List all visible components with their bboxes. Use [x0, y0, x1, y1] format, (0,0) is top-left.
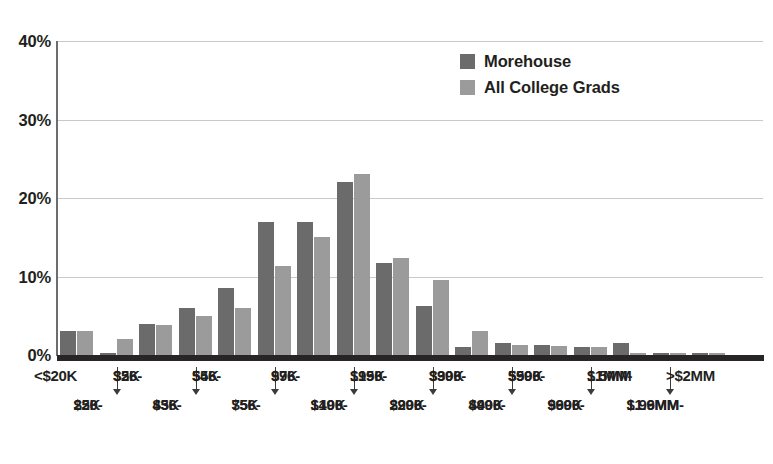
bar: [591, 347, 607, 355]
bar-chart: 0%10%20%30%40% Morehouse All College Gra…: [0, 0, 773, 464]
y-axis-tick-label: 10%: [0, 267, 51, 286]
legend-item-morehouse: Morehouse: [460, 50, 620, 72]
bar-group: [416, 41, 450, 355]
x-axis-tick-line: 499K: [469, 395, 504, 414]
chart-legend: Morehouse All College Grads: [460, 50, 620, 98]
bar: [376, 263, 392, 355]
bar: [139, 324, 155, 355]
x-axis-tick-line: 45K: [153, 395, 180, 414]
y-axis-line: [56, 41, 58, 356]
y-axis-tick-label: 30%: [0, 110, 51, 129]
bar-group: [376, 41, 410, 355]
x-axis-tick-line: 999K: [548, 395, 583, 414]
bar: [337, 182, 353, 355]
bar: [60, 331, 76, 355]
arrow-head: [350, 389, 358, 395]
legend-item-all-college-grads: All College Grads: [460, 76, 620, 98]
bar: [354, 174, 370, 355]
bar: [117, 339, 133, 355]
x-axis-tick-line: 599K: [508, 366, 543, 385]
bar-group: [337, 41, 371, 355]
legend-label: All College Grads: [484, 78, 620, 97]
bar: [433, 280, 449, 355]
x-axis-tick-line: 99K: [271, 366, 298, 385]
arrow-head: [587, 389, 595, 395]
bar: [156, 325, 172, 355]
bar: [196, 316, 212, 355]
legend-label: Morehouse: [484, 52, 571, 71]
legend-swatch-icon: [460, 80, 475, 95]
y-axis-tick-label: 20%: [0, 189, 51, 208]
x-axis-tick-line: 75K: [232, 395, 259, 414]
bar: [235, 308, 251, 355]
y-axis-tick-label: 40%: [0, 32, 51, 51]
bar-group: [258, 41, 292, 355]
arrow-head: [192, 389, 200, 395]
bar: [179, 308, 195, 355]
arrow-head: [429, 389, 437, 395]
arrow-head: [666, 389, 674, 395]
bar: [512, 345, 528, 355]
x-axis-tick-line: 199K: [350, 366, 385, 385]
x-axis-line: [57, 355, 764, 361]
bar-group: [297, 41, 331, 355]
arrow-head: [271, 389, 279, 395]
bar: [574, 347, 590, 355]
bar: [551, 346, 567, 355]
bar-group: [60, 41, 94, 355]
bar: [495, 343, 511, 355]
bar-group: [218, 41, 252, 355]
bar-group: [139, 41, 173, 355]
bar: [416, 306, 432, 355]
bar-group: [100, 41, 134, 355]
bar: [314, 237, 330, 355]
x-axis-tick-line: 299K: [390, 395, 425, 414]
bar: [297, 222, 313, 355]
bar-group: [692, 41, 726, 355]
legend-swatch-icon: [460, 54, 475, 69]
x-axis-tick-line: 35K: [113, 366, 140, 385]
bar: [455, 347, 471, 355]
bar: [613, 343, 629, 355]
bar-group: [179, 41, 213, 355]
x-axis-tick-line: 1.5MM: [587, 366, 631, 385]
arrow-head: [508, 389, 516, 395]
x-axis-tick-line: 25K: [74, 395, 101, 414]
bar: [77, 331, 93, 355]
y-axis-tick-label: 0%: [0, 346, 51, 365]
plot-area: [57, 41, 763, 355]
bar: [258, 222, 274, 355]
x-axis-tick-line: >$2MM: [666, 366, 715, 385]
bar: [275, 266, 291, 355]
bar-group: [653, 41, 687, 355]
bar: [393, 258, 409, 355]
x-axis-tick-line: 149K: [311, 395, 346, 414]
x-axis-tick-line: 55K: [192, 366, 219, 385]
bar: [534, 345, 550, 355]
x-axis-tick-line: 399K: [429, 366, 464, 385]
arrow-head: [113, 389, 121, 395]
x-axis-tick-line: 1.99MM: [627, 395, 679, 414]
x-axis-tick-line: <$20K: [34, 366, 77, 385]
bar: [472, 331, 488, 355]
bar: [218, 288, 234, 355]
